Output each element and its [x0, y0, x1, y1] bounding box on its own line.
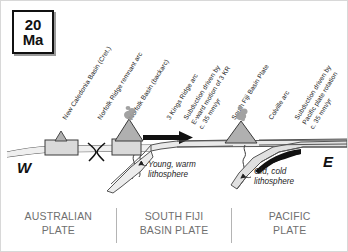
compass-west: W: [17, 159, 31, 176]
volcano-plume-east: [236, 106, 248, 121]
diagram-canvas: 20 Ma New Caledonia Basin (Cret.)Norfolk…: [0, 0, 348, 252]
cross-section-drawing: [1, 105, 347, 197]
plate-label-pacific: PACIFIC PLATE: [232, 206, 347, 237]
volcano-plume-west: [124, 106, 135, 120]
old-lithosphere-note: Old, cold lithosphere: [254, 167, 294, 188]
young-lithosphere-note: Young, warm lithosphere: [148, 160, 196, 181]
plate-label-south-fiji-basin: SOUTH FIJI BASIN PLATE: [117, 206, 232, 237]
age-unit: Ma: [23, 32, 43, 47]
plate-label-australian: AUSTRALIAN PLATE: [1, 206, 116, 237]
norfolk-ridge-block: [45, 131, 78, 155]
plate-name-band: AUSTRALIAN PLATE SOUTH FIJI BASIN PLATE …: [1, 206, 347, 250]
compass-east: E: [323, 153, 333, 170]
age-value: 20: [25, 17, 41, 32]
age-box: 20 Ma: [12, 10, 54, 54]
